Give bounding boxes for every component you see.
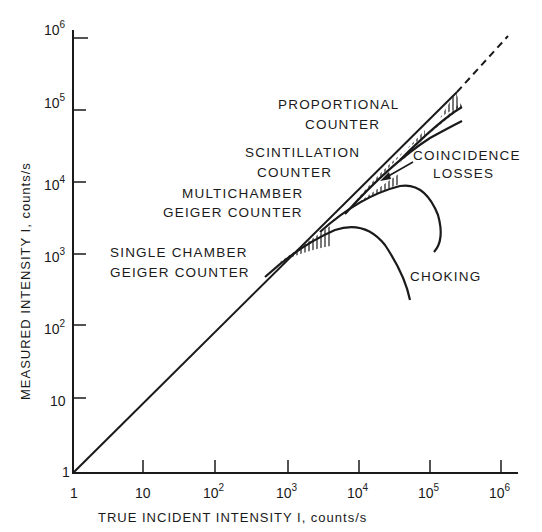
svg-text:105: 105 (44, 92, 66, 111)
svg-text:GEIGER COUNTER: GEIGER COUNTER (163, 205, 303, 220)
svg-text:10: 10 (135, 485, 151, 501)
y-axis (73, 30, 88, 474)
svg-text:106: 106 (44, 19, 66, 38)
svg-text:1: 1 (62, 464, 70, 480)
svg-text:103: 103 (44, 246, 66, 265)
svg-text:LOSSES: LOSSES (433, 166, 494, 181)
single-chamber-curve (265, 227, 410, 300)
x-tick-labels: 1 10 102 103 104 105 106 (70, 482, 511, 501)
svg-text:CHOKING: CHOKING (410, 269, 481, 284)
svg-text:103: 103 (276, 482, 298, 501)
svg-text:10: 10 (50, 393, 66, 409)
svg-text:MULTICHAMBER: MULTICHAMBER (182, 186, 303, 201)
svg-text:1: 1 (70, 485, 78, 501)
y-tick-labels: 106 105 104 103 102 10 1 (44, 19, 70, 480)
svg-text:PROPORTIONAL: PROPORTIONAL (278, 97, 399, 112)
multichamber-curve (320, 186, 441, 252)
svg-text:COINCIDENCE: COINCIDENCE (413, 148, 521, 163)
counter-response-chart: 106 105 104 103 102 10 1 1 10 102 103 10… (0, 0, 542, 532)
annotations: PROPORTIONAL COUNTER SCINTILLATION COUNT… (110, 97, 521, 284)
svg-text:GEIGER COUNTER: GEIGER COUNTER (110, 265, 250, 280)
svg-text:COUNTER: COUNTER (257, 165, 332, 180)
svg-text:102: 102 (203, 482, 225, 501)
x-axis-title: TRUE INCIDENT INTENSITY I, counts/s (98, 510, 367, 525)
svg-text:SCINTILLATION: SCINTILLATION (245, 145, 360, 160)
svg-text:104: 104 (44, 174, 66, 193)
svg-text:102: 102 (44, 318, 66, 337)
svg-text:106: 106 (489, 482, 511, 501)
svg-text:105: 105 (418, 482, 440, 501)
svg-text:COUNTER: COUNTER (305, 117, 380, 132)
y-axis-title: MEASURED INTENSITY I, counts/s (18, 162, 33, 400)
x-axis (72, 460, 518, 473)
svg-text:SINGLE CHAMBER: SINGLE CHAMBER (110, 245, 248, 260)
svg-text:104: 104 (347, 482, 369, 501)
